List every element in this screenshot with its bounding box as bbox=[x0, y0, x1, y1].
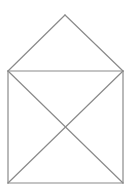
roof-right-edge bbox=[65, 15, 123, 71]
roof-left-edge bbox=[8, 15, 65, 71]
diagram-edges bbox=[8, 15, 123, 183]
house-diagram bbox=[0, 0, 135, 187]
